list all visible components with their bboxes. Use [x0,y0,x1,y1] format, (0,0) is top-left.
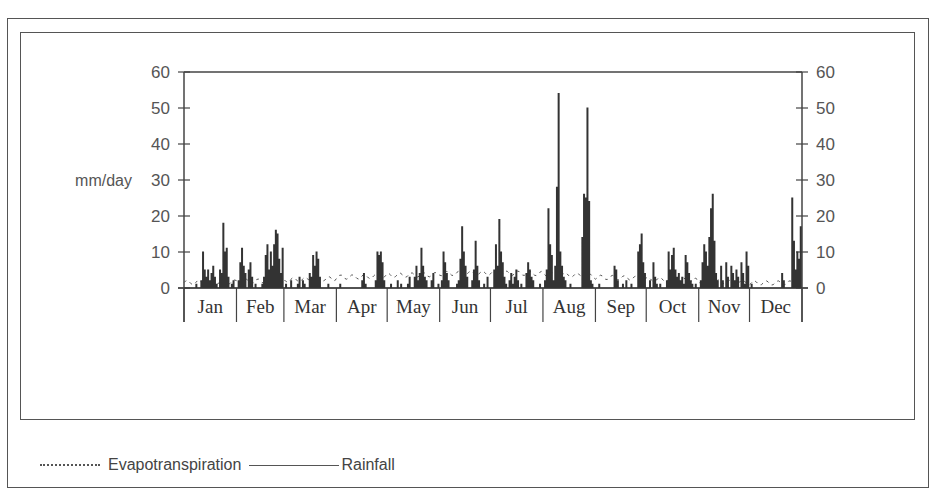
left-y-tick-label: 50 [151,99,170,118]
month-label: May [396,296,431,317]
rainfall-legend-swatch [249,465,339,466]
y-axis-label: mm/day [75,172,132,189]
left-y-tick-label: 20 [151,207,170,226]
left-y-tick-label: 0 [161,279,170,298]
left-y-tick-label: 60 [151,63,170,82]
month-label: Mar [294,296,326,317]
legend: Evapotranspiration Rainfall [40,456,395,474]
month-label: Jul [506,296,528,317]
month-label: Feb [246,296,275,317]
rainfall-series [184,94,801,288]
left-y-tick-label: 40 [151,135,170,154]
month-label: Jun [452,296,479,317]
month-label: Oct [659,296,687,317]
month-label: Apr [347,296,377,317]
chart-plot: 00101020203030404050506060mm/dayJanFebMa… [0,0,936,498]
left-y-tick-label: 30 [151,171,170,190]
evapotranspiration-legend-swatch [40,464,100,466]
evapotranspiration-legend-label: Evapotranspiration [108,456,241,474]
left-y-tick-label: 10 [151,243,170,262]
rainfall-legend-label: Rainfall [341,456,394,474]
right-y-tick-label: 30 [816,171,835,190]
right-y-tick-label: 20 [816,207,835,226]
right-y-tick-label: 10 [816,243,835,262]
month-label: Dec [760,296,791,317]
month-label: Aug [553,296,586,317]
month-label: Nov [708,296,741,317]
right-y-tick-label: 40 [816,135,835,154]
rainfall-line [184,94,801,288]
right-y-tick-label: 50 [816,99,835,118]
month-label: Sep [607,296,636,317]
right-y-tick-label: 0 [816,279,825,298]
month-label: Jan [198,296,224,317]
right-y-tick-label: 60 [816,63,835,82]
